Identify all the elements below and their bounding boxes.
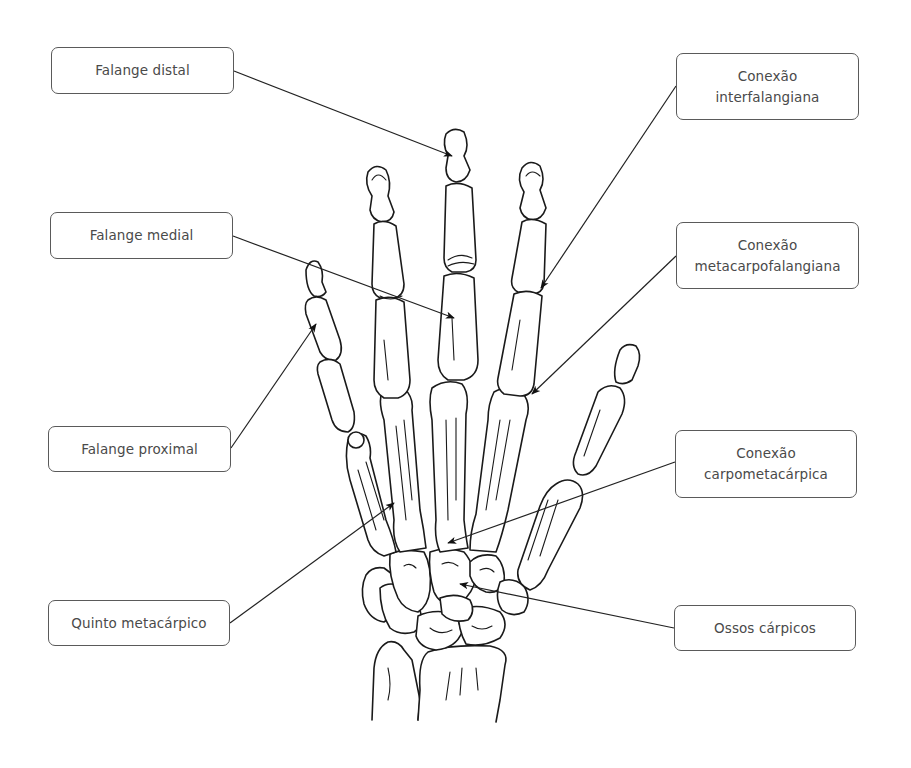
label-text: Falange medial	[90, 225, 194, 246]
label-conexao-interfalangiana: Conexão interfalangiana	[676, 53, 859, 120]
label-text-line-2: metacarpofalangiana	[694, 256, 840, 277]
label-conexao-metacarpofalangiana: Conexão metacarpofalangiana	[676, 222, 859, 289]
hand-bones-diagram: Falange distal Falange medial Falange pr…	[0, 0, 911, 768]
label-conexao-carpometacarpica: Conexão carpometacárpica	[675, 430, 857, 498]
label-text-line-1: Conexão	[736, 443, 796, 464]
label-text: Quinto metacárpico	[71, 613, 206, 634]
label-text-line-2: carpometacárpica	[704, 464, 828, 485]
label-quinto-metacarpico: Quinto metacárpico	[48, 600, 230, 646]
forearm-bones	[372, 642, 506, 722]
label-falange-distal: Falange distal	[51, 47, 234, 94]
label-falange-medial: Falange medial	[50, 212, 233, 259]
label-text-line-1: Conexão	[738, 235, 798, 256]
label-text: Ossos cárpicos	[714, 618, 816, 639]
label-text: Falange distal	[95, 60, 190, 81]
label-falange-proximal: Falange proximal	[48, 426, 231, 472]
label-text-line-1: Conexão	[738, 66, 798, 87]
carpal-bones	[362, 549, 528, 650]
label-ossos-carpicos: Ossos cárpicos	[674, 605, 856, 651]
label-text-line-2: interfalangiana	[716, 87, 820, 108]
phalanges	[305, 129, 639, 475]
label-text: Falange proximal	[81, 439, 198, 460]
